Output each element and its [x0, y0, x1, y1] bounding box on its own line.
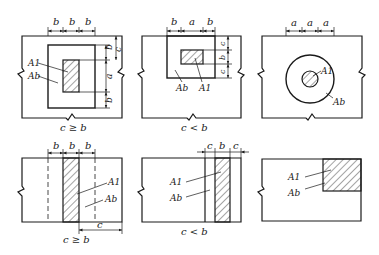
svg-text:a: a: [307, 17, 313, 28]
panel-1: b b b b a b c A1 Ab c ≥ b: [18, 16, 124, 133]
svg-text:b: b: [104, 97, 114, 103]
svg-text:c: c: [218, 69, 227, 74]
svg-text:Ab: Ab: [287, 188, 300, 198]
panel-3: a a a A1 Ab: [258, 17, 365, 120]
svg-text:A1: A1: [287, 172, 300, 182]
svg-text:c: c: [233, 140, 239, 151]
svg-text:b: b: [69, 16, 75, 27]
svg-text:c: c: [97, 219, 103, 230]
a1-area: [63, 158, 79, 222]
svg-text:c < b: c < b: [181, 226, 208, 237]
svg-text:b: b: [69, 140, 75, 151]
svg-text:a: a: [104, 74, 114, 79]
svg-text:Ab: Ab: [175, 83, 188, 93]
svg-text:c: c: [207, 140, 213, 151]
svg-text:A1: A1: [27, 58, 40, 68]
svg-text:c: c: [218, 41, 227, 46]
svg-text:c ≥ b: c ≥ b: [63, 234, 90, 245]
svg-text:a: a: [291, 17, 297, 28]
svg-text:b: b: [207, 16, 213, 27]
svg-text:b: b: [85, 140, 91, 151]
a1-area: [302, 71, 318, 87]
local-bearing-area-diagram: b b b b a b c A1 Ab c ≥ b b a b: [0, 0, 379, 255]
svg-text:Ab: Ab: [169, 193, 182, 203]
a1-area: [215, 158, 230, 222]
panel-5: c b c A1 Ab c < b: [138, 140, 249, 237]
svg-text:c < b: c < b: [181, 122, 208, 133]
svg-text:a: a: [323, 17, 329, 28]
svg-text:A1: A1: [320, 66, 333, 76]
svg-text:b: b: [53, 16, 59, 27]
svg-text:c: c: [113, 47, 123, 52]
svg-text:Ab: Ab: [27, 71, 40, 81]
svg-text:b: b: [219, 140, 225, 151]
svg-text:a: a: [189, 16, 195, 27]
panel-6: A1 Ab: [258, 159, 361, 221]
svg-text:A1: A1: [107, 177, 120, 187]
panel-2: b a b c b c Ab A1 c < b: [138, 16, 244, 133]
svg-text:c ≥ b: c ≥ b: [60, 122, 87, 133]
svg-text:A1: A1: [169, 177, 182, 187]
panel-4: b b b c A1 Ab c ≥ b: [18, 140, 122, 245]
svg-text:b: b: [85, 16, 91, 27]
svg-text:Ab: Ab: [104, 194, 117, 204]
svg-text:b: b: [53, 140, 59, 151]
svg-text:A1: A1: [198, 83, 211, 93]
a1-area: [181, 50, 203, 64]
svg-text:b: b: [171, 16, 177, 27]
a1-area: [323, 159, 361, 191]
svg-text:b: b: [218, 55, 227, 60]
a1-area: [63, 60, 79, 92]
svg-text:Ab: Ab: [332, 97, 345, 107]
